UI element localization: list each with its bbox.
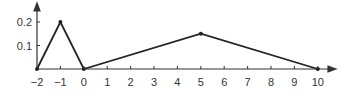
y-tick-label: 0.2 <box>17 16 32 28</box>
line-chart: −2−1012345678910 0.10.2 <box>0 0 348 95</box>
y-axis-arrow-icon <box>34 3 40 11</box>
x-tick-label: 2 <box>128 76 134 88</box>
x-axis-arrow-icon <box>328 66 336 72</box>
data-line <box>37 22 318 69</box>
x-tick-label: 9 <box>291 76 297 88</box>
x-tick-label: 1 <box>104 76 110 88</box>
x-tick-label: −1 <box>54 76 67 88</box>
x-tick-label: 7 <box>245 76 251 88</box>
x-tick-label: 3 <box>151 76 157 88</box>
data-point <box>82 67 86 71</box>
data-point <box>35 67 39 71</box>
data-point <box>316 67 320 71</box>
y-tick-label: 0.1 <box>17 40 32 52</box>
x-tick-label: 8 <box>268 76 274 88</box>
data-points <box>35 20 320 71</box>
data-point <box>58 20 62 24</box>
x-tick-label: 4 <box>174 76 180 88</box>
data-point <box>199 32 203 36</box>
x-tick-label: −2 <box>31 76 44 88</box>
x-tick-label: 0 <box>81 76 87 88</box>
x-tick-label: 6 <box>221 76 227 88</box>
x-tick-label: 10 <box>312 76 324 88</box>
x-tick-label: 5 <box>198 76 204 88</box>
